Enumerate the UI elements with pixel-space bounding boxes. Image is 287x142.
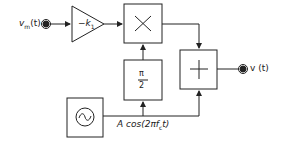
multiply-icon [135,16,151,31]
input-terminal [42,20,51,29]
output-terminal [239,65,248,74]
sine-wave-icon [79,114,91,121]
phase-numerator: π [139,69,144,78]
phase-denominator: 2 [139,81,144,90]
gain-label: −k1 [78,18,95,30]
multiplier-to-adder-arrow [162,24,199,48]
carrier-label: A cos(2πfct) [117,119,169,131]
output-label: v (t) [250,63,269,73]
input-label: vm(t) [19,18,41,30]
plus-icon [190,60,208,79]
